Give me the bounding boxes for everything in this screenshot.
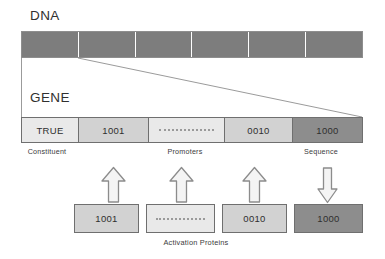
gene-bar: TRUE 1001 0010 1000 (21, 117, 363, 143)
dna-segment (249, 32, 306, 57)
gene-cell-promoter-1: 1001 (79, 118, 149, 142)
caption-constituent: Constituent (28, 147, 67, 156)
dna-bar (21, 31, 363, 58)
caption-sequence: Sequence (304, 147, 338, 156)
activation-arrow-up-icon (168, 166, 195, 204)
activation-arrow-up-icon (241, 166, 268, 204)
caption-activation-proteins: Activation Proteins (163, 238, 228, 247)
sequence-output-arrow-down-icon (316, 166, 339, 204)
gene-cell-promoter-n: 0010 (225, 118, 293, 142)
gene-cell-label: 0010 (247, 125, 269, 136)
gene-cell-sequence: 1000 (293, 118, 362, 142)
ellipsis-dots-icon (159, 129, 215, 131)
protein-box-label: 1001 (95, 213, 117, 224)
dna-segment (79, 32, 136, 57)
gene-cell-promoter-ellipsis (149, 118, 225, 142)
protein-box-label: 1000 (317, 213, 339, 224)
gene-cell-constituent: TRUE (22, 118, 79, 142)
protein-box: 0010 (222, 204, 287, 233)
gene-title: GENE (30, 90, 70, 105)
gene-regulation-diagram: DNA GENE TRUE 1001 0010 1000 Constitu (0, 0, 385, 259)
protein-box-label: 0010 (243, 213, 265, 224)
protein-box-sequence: 1000 (294, 204, 363, 233)
gene-cell-label: 1000 (316, 125, 338, 136)
dna-segment (192, 32, 249, 57)
dna-title: DNA (30, 8, 60, 23)
dna-segment (22, 32, 79, 57)
protein-box-ellipsis (146, 204, 215, 233)
gene-cell-label: 1001 (102, 125, 124, 136)
activation-arrow-up-icon (100, 166, 127, 204)
gene-cell-label: TRUE (36, 125, 63, 136)
protein-box: 1001 (74, 204, 139, 233)
dna-segment (306, 32, 362, 57)
caption-promoters: Promoters (168, 147, 203, 156)
ellipsis-dots-icon (156, 218, 206, 220)
dna-segment (136, 32, 193, 57)
